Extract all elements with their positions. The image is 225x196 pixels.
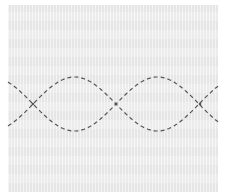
crossing-points — [32, 103, 202, 106]
stitch-line-lower — [8, 77, 218, 131]
stitch-line-upper — [8, 77, 218, 131]
crossing-knot — [199, 103, 202, 106]
crossing-knot — [115, 103, 118, 106]
stitch-diagram — [0, 0, 225, 196]
crossing-knot — [32, 103, 35, 106]
